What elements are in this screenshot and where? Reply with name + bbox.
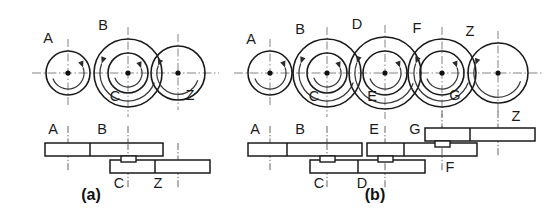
shaft-center-dot-5: [495, 70, 500, 75]
rotation-arrowhead-b-E: [395, 60, 400, 67]
bar-upper-body: [45, 143, 163, 156]
shaft-center-dot-4: [439, 70, 444, 75]
bar-level-3-body: [367, 143, 477, 156]
shaft-center-dot-2: [125, 70, 130, 75]
captions-layer: (a)(b): [81, 186, 385, 203]
rotation-arrowhead-a-A: [78, 60, 83, 67]
bar-level-1-label-A: A: [250, 121, 260, 137]
bar-lower-label-Z: Z: [154, 175, 163, 191]
bar-level-4-body: [425, 128, 535, 141]
bar-level-4-label-F: F: [446, 159, 455, 175]
shaft-center-dot-3: [382, 70, 387, 75]
hub-shaft-3-b: [378, 156, 393, 162]
bar-level-3-label-G: G: [409, 121, 420, 137]
gear-label-a-C: C: [110, 88, 120, 104]
gear-label-b-Z: Z: [466, 23, 475, 39]
hub-shaft-2-a: [121, 156, 136, 162]
bar-level-4-label-Z: Z: [512, 108, 521, 124]
shaft-center-dot-2: [324, 70, 329, 75]
rotation-arrowhead-b-Z: [475, 58, 480, 65]
bar-level-1-body: [248, 143, 362, 156]
rotation-arrowhead-a-B: [101, 56, 106, 63]
gear-label-a-Z: Z: [186, 87, 195, 103]
panel-b: ABCDEFGZABCDEGZF: [234, 16, 542, 191]
bar-level-1-label-B: B: [295, 121, 305, 137]
rotation-arrowhead-b-B: [300, 56, 305, 63]
bar-level-3-label-E: E: [369, 121, 379, 137]
bar-lower-label-C: C: [114, 175, 124, 191]
rotation-arrowhead-a-C: [136, 61, 141, 68]
rotation-arrowhead-b-A: [280, 60, 285, 67]
bar-level-2-label-C: C: [314, 175, 324, 191]
gear-label-a-B: B: [98, 17, 108, 33]
shaft-center-dot-3: [175, 70, 180, 75]
shaft-center-dot-1: [65, 70, 70, 75]
panel-caption-b: (b): [365, 186, 385, 203]
gear-label-b-G: G: [449, 87, 460, 103]
hub-shaft-4-b: [435, 141, 450, 147]
gear-train-figure: ABCZABCZABCDEFGZABCDEGZF (a)(b): [0, 0, 559, 215]
bar-upper-label-B: B: [97, 121, 107, 137]
bar-upper-label-A: A: [48, 121, 58, 137]
hub-shaft-2-b: [320, 156, 335, 162]
panels-layer: ABCZABCZABCDEFGZABCDEGZF: [32, 16, 542, 191]
panel-a: ABCZABCZ: [32, 17, 219, 191]
rotation-arrowhead-b-G: [452, 60, 457, 67]
gear-label-b-D: D: [352, 16, 362, 32]
gear-label-b-E: E: [367, 88, 377, 104]
gear-label-b-F: F: [413, 20, 422, 36]
gear-label-b-A: A: [246, 31, 256, 47]
rotation-arc-b-Z: [474, 65, 521, 97]
panel-caption-a: (a): [81, 186, 101, 203]
shaft-center-dot-1: [267, 70, 272, 75]
rotation-arrowhead-b-C: [335, 61, 340, 68]
gear-label-a-A: A: [43, 30, 53, 46]
gear-label-b-C: C: [309, 88, 319, 104]
gear-label-b-B: B: [295, 21, 305, 37]
figure-canvas: ABCZABCZABCDEFGZABCDEGZF (a)(b): [0, 0, 559, 215]
